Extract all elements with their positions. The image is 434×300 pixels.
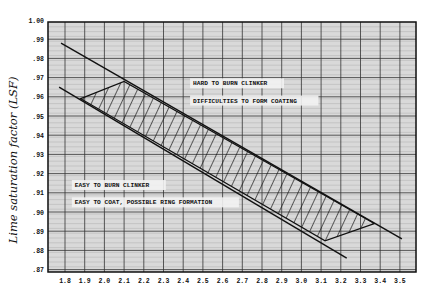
- y-tick-label: .89: [32, 229, 44, 236]
- x-tick-label: 3.1: [315, 278, 327, 285]
- x-tick-label: 2.0: [99, 278, 111, 285]
- y-tick-label: .98: [32, 56, 44, 63]
- x-tick-label: 1.8: [59, 278, 71, 285]
- x-tick-label: 3.2: [335, 278, 347, 285]
- y-tick-label: .92: [32, 171, 44, 178]
- x-tick-label: 3.5: [394, 278, 406, 285]
- x-tick-label: 2.8: [256, 278, 268, 285]
- x-tick-label: 1.9: [79, 278, 91, 285]
- y-tick-label: .87: [32, 267, 44, 274]
- annotation-text: DIFFICULTIES TO FORM COATING: [193, 98, 297, 105]
- x-tick-label: 2.6: [217, 278, 229, 285]
- annotation-text: EASY TO BURN CLINKER: [75, 182, 150, 189]
- x-tick-label: 2.4: [177, 278, 189, 285]
- y-tick-label: .88: [32, 248, 44, 255]
- y-tick-label: .93: [32, 152, 44, 159]
- x-tick-label: 3.3: [355, 278, 367, 285]
- x-tick-label: 2.2: [138, 278, 150, 285]
- chart: Lime saturation factor (LSF) HARD TO BUR…: [0, 0, 434, 300]
- y-tick-label: .95: [32, 114, 44, 121]
- y-tick-label: .99: [32, 37, 44, 44]
- annotation-text: HARD TO BURN CLINKER: [193, 80, 268, 87]
- y-tick-label: .97: [32, 75, 44, 82]
- x-tick-label: 2.9: [276, 278, 288, 285]
- x-tick-label: 2.1: [118, 278, 130, 285]
- plot-area: HARD TO BURN CLINKERDIFFICULTIES TO FORM…: [0, 0, 434, 300]
- x-tick-label: 2.5: [197, 278, 209, 285]
- x-tick-label: 3.0: [296, 278, 308, 285]
- x-tick-label: 2.3: [158, 278, 170, 285]
- x-tick-label: 2.7: [236, 278, 248, 285]
- y-tick-label: .96: [32, 94, 44, 101]
- y-tick-label: .91: [32, 190, 44, 197]
- y-tick-labels: 1.00.99.98.97.96.95.94.93.92.91.90.89.88…: [28, 18, 44, 275]
- y-tick-label: .94: [32, 133, 44, 140]
- x-tick-label: 3.4: [374, 278, 386, 285]
- annotation-text: EASY TO COAT, POSSIBLE RING FORMATION: [75, 199, 213, 206]
- x-tick-labels: 1.81.92.02.12.22.32.42.52.62.72.82.93.03…: [59, 278, 406, 285]
- y-tick-label: 1.00: [28, 18, 44, 25]
- y-tick-label: .90: [32, 210, 44, 217]
